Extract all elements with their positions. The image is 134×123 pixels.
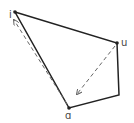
label-u: u xyxy=(121,38,127,48)
point-i xyxy=(13,10,17,14)
arrow-a-to-i xyxy=(14,20,67,104)
arrow-u-to-a xyxy=(77,46,115,94)
point-u xyxy=(115,41,119,45)
label-i: i xyxy=(9,10,12,20)
label-a: ɑ xyxy=(65,111,71,121)
quadrilateral-outline xyxy=(15,12,119,108)
vowel-quadrilateral xyxy=(0,0,134,123)
